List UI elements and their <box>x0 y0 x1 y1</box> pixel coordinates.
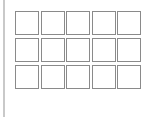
grid-cell-r2-c4[interactable] <box>92 38 116 62</box>
grid-cell-r1-c5[interactable] <box>117 11 141 35</box>
grid-cell-r2-c1[interactable] <box>15 38 39 62</box>
grid-cell-r3-c5[interactable] <box>117 65 141 89</box>
grid-cell-r3-c2[interactable] <box>41 65 65 89</box>
grid-cell-r1-c1[interactable] <box>15 11 39 35</box>
grid-cell-r1-c4[interactable] <box>92 11 116 35</box>
grid-cell-r3-c1[interactable] <box>15 65 39 89</box>
grid-cell-r3-c4[interactable] <box>92 65 116 89</box>
grid-cell-r1-c2[interactable] <box>41 11 65 35</box>
grid-cell-r1-c3[interactable] <box>66 11 90 35</box>
slot-grid <box>15 11 141 89</box>
grid-cell-r2-c2[interactable] <box>41 38 65 62</box>
grid-cell-r2-c3[interactable] <box>66 38 90 62</box>
left-divider-bar <box>3 0 5 117</box>
grid-cell-r2-c5[interactable] <box>117 38 141 62</box>
grid-cell-r3-c3[interactable] <box>66 65 90 89</box>
